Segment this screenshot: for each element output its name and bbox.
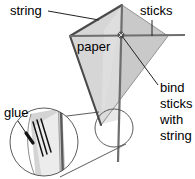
string-leader-line xyxy=(48,11,99,20)
label-glue: glue xyxy=(4,105,29,120)
callout-line-bind: bind xyxy=(160,80,185,95)
callout-bind-sticks-with-string: bind sticks with string xyxy=(159,80,193,143)
callout-line-string: string xyxy=(160,128,192,143)
label-sticks: sticks xyxy=(140,3,173,18)
kite-diagram-canvas: string sticks paper glue bind sticks wit… xyxy=(0,0,195,179)
callout-line-with: with xyxy=(159,112,183,127)
callout-line-sticks: sticks xyxy=(160,96,193,111)
label-string: string xyxy=(10,3,42,18)
label-paper: paper xyxy=(77,39,111,54)
horizontal-cross-stick xyxy=(69,35,185,36)
kite-construction-diagram: string sticks paper glue bind sticks wit… xyxy=(0,0,195,179)
